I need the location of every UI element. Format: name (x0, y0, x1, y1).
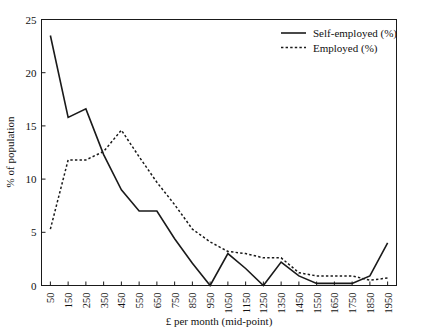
x-tick-label: 1250 (258, 293, 269, 314)
x-tick-label: 450 (116, 293, 127, 309)
x-tick-label: 750 (170, 293, 181, 309)
x-tick-label: 350 (99, 293, 110, 309)
x-tick-label: 1350 (276, 293, 287, 314)
x-tick-label: 1750 (347, 293, 358, 314)
x-tick-label: 1550 (312, 293, 323, 314)
y-tick-label: 15 (26, 120, 38, 132)
y-tick-label: 20 (26, 67, 38, 79)
legend-label: Employed (%) (313, 42, 378, 55)
x-tick-label: 1650 (329, 293, 340, 314)
line-chart: 0510152025 50150250350450550650750850950… (0, 0, 424, 336)
y-tick-label: 5 (31, 226, 37, 238)
y-tick-label: 25 (26, 14, 38, 26)
x-tick-label: 650 (152, 293, 163, 309)
x-axis-title: £ per month (mid-point) (166, 315, 273, 328)
x-tick-label: 50 (45, 293, 56, 304)
x-tick-label: 850 (187, 293, 198, 309)
y-tick-label: 10 (26, 173, 38, 185)
x-tick-label: 250 (81, 293, 92, 309)
x-tick-label: 1150 (241, 293, 252, 314)
x-tick-label: 950 (205, 293, 216, 309)
x-tick-label: 550 (134, 293, 145, 309)
x-tick-label: 1850 (365, 293, 376, 314)
x-tick-label: 1950 (383, 293, 394, 314)
x-tick-label: 1450 (294, 293, 305, 314)
x-tick-label: 150 (63, 293, 74, 309)
x-tick-label: 1050 (223, 293, 234, 314)
y-tick-label: 0 (31, 280, 37, 292)
y-axis-title: % of population (4, 116, 16, 187)
chart-figure: 0510152025 50150250350450550650750850950… (0, 0, 424, 336)
legend-label: Self-employed (%) (313, 27, 397, 40)
